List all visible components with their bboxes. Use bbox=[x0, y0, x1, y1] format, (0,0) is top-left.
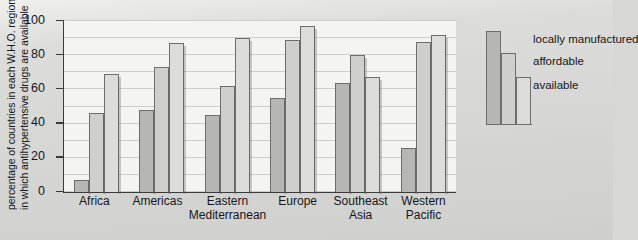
x-axis-label-line: Pacific bbox=[392, 209, 455, 223]
y-axis-title-line-1: percentage of countries in each W.H.O. r… bbox=[5, 5, 17, 210]
legend-swatch-affordable bbox=[501, 53, 516, 125]
y-axis-tick: 100 bbox=[56, 20, 64, 22]
y-axis-tick: 60 bbox=[56, 88, 64, 90]
bar-group bbox=[195, 21, 260, 192]
x-axis-label: Americas bbox=[126, 195, 189, 222]
y-axis-tick-label: 80 bbox=[31, 47, 45, 61]
x-axis-label-line: Americas bbox=[126, 195, 189, 209]
bar bbox=[220, 86, 235, 192]
y-axis-tick: 20 bbox=[56, 156, 64, 158]
x-axis-label: Africa bbox=[63, 195, 126, 222]
bar bbox=[89, 113, 104, 192]
bar bbox=[285, 40, 300, 192]
chart-legend bbox=[486, 31, 531, 125]
legend-swatch-available bbox=[516, 77, 531, 125]
bar bbox=[104, 74, 119, 192]
x-axis-label: Europe bbox=[266, 195, 329, 222]
x-axis-label-line: Europe bbox=[266, 195, 329, 209]
bar bbox=[74, 180, 89, 192]
x-axis-label-line: Eastern bbox=[189, 195, 266, 209]
bar bbox=[365, 77, 380, 192]
x-axis-label-line: Africa bbox=[63, 195, 126, 209]
y-axis-tick: 80 bbox=[56, 54, 64, 56]
bar bbox=[416, 42, 431, 192]
y-axis-title: percentage of countries in each W.H.O. r… bbox=[2, 0, 36, 210]
y-axis-tick-label: 60 bbox=[31, 81, 45, 95]
bar-group bbox=[391, 21, 456, 192]
bar bbox=[335, 83, 350, 192]
bar-group bbox=[129, 21, 194, 192]
legend-label-affordable: affordable bbox=[533, 55, 584, 67]
bar bbox=[350, 55, 365, 192]
y-axis-tick-label: 40 bbox=[31, 115, 45, 129]
bar bbox=[431, 35, 446, 192]
x-axis-label-line: Asia bbox=[329, 209, 392, 223]
bar bbox=[205, 115, 220, 192]
bar-group bbox=[64, 21, 129, 192]
bar bbox=[270, 98, 285, 192]
x-axis-label-line: Mediterranean bbox=[189, 209, 266, 223]
y-axis-tick: 0 bbox=[56, 191, 64, 193]
x-axis-label: WesternPacific bbox=[392, 195, 455, 222]
bar bbox=[139, 110, 154, 192]
bar-groups bbox=[64, 21, 456, 192]
y-axis-tick-label: 20 bbox=[31, 149, 45, 163]
bar bbox=[235, 38, 250, 192]
x-axis-labels: AfricaAmericasEasternMediterraneanEurope… bbox=[63, 195, 455, 222]
bar bbox=[154, 67, 169, 192]
legend-baseline bbox=[486, 124, 532, 125]
x-axis-label: EasternMediterranean bbox=[189, 195, 266, 222]
legend-label-locally-manufactured: locally manufactured bbox=[533, 33, 638, 45]
bar-group bbox=[260, 21, 325, 192]
bar bbox=[300, 26, 315, 192]
y-axis-tick: 40 bbox=[56, 122, 64, 124]
y-axis-tick-label: 0 bbox=[38, 184, 45, 198]
y-axis-tick-label: 100 bbox=[24, 13, 45, 27]
x-axis-label: SoutheastAsia bbox=[329, 195, 392, 222]
legend-swatch-locally-manufactured bbox=[486, 31, 501, 125]
bar-group bbox=[325, 21, 390, 192]
plot-area: 020406080100 bbox=[63, 21, 456, 193]
y-axis-title-line-2: in which antihypertensive drugs are avai… bbox=[18, 5, 30, 210]
bar bbox=[401, 148, 416, 192]
x-axis-label-line: Southeast bbox=[329, 195, 392, 209]
bar bbox=[169, 43, 184, 192]
legend-label-available: available bbox=[533, 79, 578, 91]
x-axis-label-line: Western bbox=[392, 195, 455, 209]
